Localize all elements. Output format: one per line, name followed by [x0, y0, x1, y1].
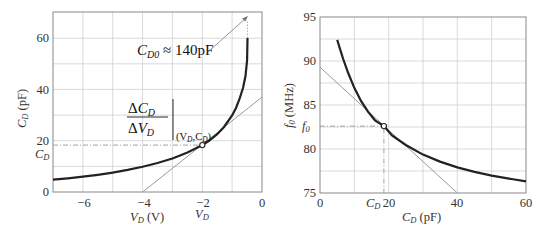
left-xtick-0: 0 [259, 196, 265, 210]
left-x-axis-label: VD (V) [130, 210, 164, 225]
left-ytick-60: 60 [37, 31, 50, 45]
right-xtick-60: 60 [520, 196, 533, 210]
right-xtick-40: 40 [451, 196, 464, 210]
svg-text:ΔCD: ΔCD [128, 100, 156, 118]
right-y-axis-label: f0 (MHz) [282, 83, 297, 128]
right-ytick-95: 95 [304, 10, 317, 24]
left-chart: 0 20 40 60 −6 −4 −2 0 CD VD VD (V) CD (p… [15, 12, 265, 225]
right-xtick-0: 0 [317, 196, 323, 210]
right-cd-marker-label: CD [366, 196, 381, 211]
right-operating-point [381, 124, 386, 129]
right-f0-marker-label: f0 [302, 119, 310, 134]
figure: 0 20 40 60 −6 −4 −2 0 CD VD VD (V) CD (p… [0, 0, 545, 233]
left-ytick-0: 0 [43, 185, 49, 199]
right-chart: 75 80 85 90 95 f0 0 20 40 60 CD CD (pF) … [282, 10, 532, 225]
left-cd0-leader [208, 18, 246, 52]
right-ytick-85: 85 [304, 98, 317, 112]
left-cd0-annotation: CD0 ≈ 140pF [137, 42, 213, 60]
right-grid [320, 17, 526, 193]
left-ytick-40: 40 [37, 83, 50, 97]
left-grid [53, 12, 262, 192]
left-y-axis-label: CD (pF) [15, 89, 30, 128]
right-x-axis-label: CD (pF) [402, 210, 441, 225]
left-xtick-neg4: −4 [137, 196, 151, 210]
left-xtick-neg6: −6 [77, 196, 90, 210]
svg-text:ΔVD: ΔVD [128, 120, 155, 138]
left-cd-marker-label: CD [35, 147, 50, 162]
right-ytick-80: 80 [304, 142, 317, 156]
right-xtick-20: 20 [383, 196, 396, 210]
left-derivative-annotation: ΔCD ΔVD (VD,CD) [127, 99, 212, 144]
left-plot-frame [53, 12, 262, 192]
right-ytick-90: 90 [304, 54, 317, 68]
svg-text:(VD,CD): (VD,CD) [176, 131, 212, 144]
right-ytick-75: 75 [304, 186, 317, 200]
left-ytick-20: 20 [37, 134, 50, 148]
